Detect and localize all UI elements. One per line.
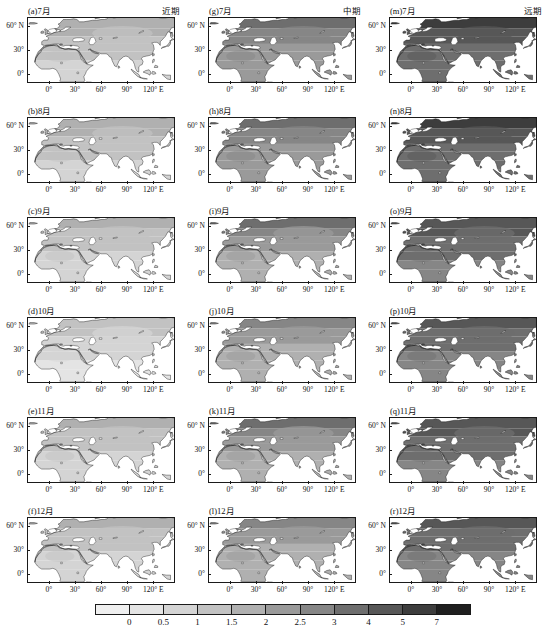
x-tick-mark (230, 181, 231, 184)
y-tick-mark (208, 474, 211, 475)
colorbar-segment (300, 605, 334, 614)
x-tick-mark (230, 481, 231, 484)
x-tick-mark (515, 381, 516, 384)
x-tick-label: 90° (303, 385, 314, 394)
y-tick-label: 60° N (6, 22, 24, 30)
y-tick-label: 0° (17, 570, 24, 578)
x-tick-mark (153, 81, 154, 84)
y-tick-label: 60° N (6, 322, 24, 330)
x-tick-mark (127, 581, 128, 584)
x-axis: 0°30°60°90°120° E (389, 584, 537, 598)
x-tick-mark (308, 281, 309, 284)
x-tick-label: 60° (458, 385, 469, 394)
x-tick-mark (515, 481, 516, 484)
y-tick-label: 30° (376, 146, 387, 154)
x-tick-label: 30° (251, 585, 262, 594)
x-tick-mark (127, 481, 128, 484)
x-tick-mark (437, 481, 438, 484)
map-shading (209, 218, 355, 282)
map-shading (390, 118, 536, 182)
panel-label: (c)9月 (28, 206, 51, 216)
x-tick-mark (256, 581, 257, 584)
y-tick-label: 60° N (368, 422, 386, 430)
y-tick-mark (389, 126, 392, 127)
x-tick-mark (489, 381, 490, 384)
x-axis: 0°30°60°90°120° E (389, 84, 537, 98)
x-tick-label: 60° (458, 285, 469, 294)
x-tick-label: 90° (484, 85, 495, 94)
y-tick-label: 30° (376, 546, 387, 554)
map-plot-area (208, 117, 356, 183)
x-tick-label: 120° E (143, 185, 164, 194)
x-tick-mark (334, 381, 335, 384)
x-tick-mark (153, 281, 154, 284)
colorbar-tick-label: 3 (332, 616, 337, 628)
map-panel: (c)9月60° N30°0°0°30°60°90°120° E (2, 206, 184, 306)
y-axis: 60° N30°0° (2, 317, 27, 383)
x-tick-mark (463, 81, 464, 84)
map-plot-area (27, 117, 175, 183)
x-tick-mark (256, 281, 257, 284)
map-shading (28, 518, 174, 582)
x-tick-mark (101, 81, 102, 84)
x-axis: 0°30°60°90°120° E (27, 584, 175, 598)
x-tick-mark (411, 381, 412, 384)
panel-label: (r)12月 (390, 506, 416, 516)
map-panel: (f)12月60° N30°0°0°30°60°90°120° E (2, 506, 184, 606)
x-tick-label: 0° (45, 485, 52, 494)
y-tick-mark (389, 26, 392, 27)
y-tick-label: 0° (198, 370, 205, 378)
x-tick-mark (463, 181, 464, 184)
x-tick-label: 120° E (324, 85, 345, 94)
map-panel: (d)10月60° N30°0°0°30°60°90°120° E (2, 306, 184, 406)
x-tick-label: 60° (96, 385, 107, 394)
y-tick-label: 0° (379, 70, 386, 78)
map-shading (390, 218, 536, 282)
x-tick-label: 30° (432, 85, 443, 94)
panel-label: (a)7月 (28, 6, 51, 16)
y-tick-label: 30° (14, 46, 25, 54)
x-tick-mark (282, 281, 283, 284)
x-tick-mark (308, 81, 309, 84)
x-tick-label: 120° E (143, 385, 164, 394)
x-axis: 0°30°60°90°120° E (27, 284, 175, 298)
y-tick-label: 60° N (187, 22, 205, 30)
y-tick-mark (27, 50, 30, 51)
x-axis: 0°30°60°90°120° E (208, 584, 356, 598)
map-shading (209, 118, 355, 182)
x-tick-label: 0° (226, 285, 233, 294)
x-tick-mark (411, 81, 412, 84)
x-tick-label: 30° (251, 285, 262, 294)
panel-label: (m)7月 (390, 6, 416, 16)
x-tick-label: 0° (407, 485, 414, 494)
x-tick-label: 0° (226, 485, 233, 494)
colorbar-segment (129, 605, 163, 614)
panel-label: (h)8月 (209, 106, 232, 116)
x-tick-mark (334, 481, 335, 484)
y-tick-mark (27, 126, 30, 127)
x-tick-mark (463, 481, 464, 484)
x-tick-mark (515, 581, 516, 584)
x-tick-label: 60° (96, 485, 107, 494)
x-tick-label: 120° E (143, 285, 164, 294)
map-panel: (g)7月中期60° N30°0°0°30°60°90°120° E (183, 6, 365, 106)
map-shading (28, 418, 174, 482)
y-tick-mark (389, 526, 392, 527)
y-axis: 60° N30°0° (2, 517, 27, 583)
y-axis: 60° N30°0° (183, 517, 208, 583)
y-tick-label: 30° (376, 446, 387, 454)
y-tick-label: 30° (376, 46, 387, 54)
x-axis: 0°30°60°90°120° E (27, 84, 175, 98)
x-axis: 0°30°60°90°120° E (208, 184, 356, 198)
map-panel: (r)12月60° N30°0°0°30°60°90°120° E (364, 506, 546, 606)
x-tick-label: 90° (484, 585, 495, 594)
x-tick-label: 120° E (324, 485, 345, 494)
x-axis: 0°30°60°90°120° E (389, 184, 537, 198)
map-panel: (a)7月近期60° N30°0°0°30°60°90°120° E (2, 6, 184, 106)
x-tick-label: 60° (277, 585, 288, 594)
column-period-header: 中期 (343, 6, 361, 16)
y-tick-label: 60° N (187, 322, 205, 330)
y-tick-mark (27, 350, 30, 351)
x-tick-label: 120° E (324, 385, 345, 394)
x-tick-label: 90° (122, 185, 133, 194)
